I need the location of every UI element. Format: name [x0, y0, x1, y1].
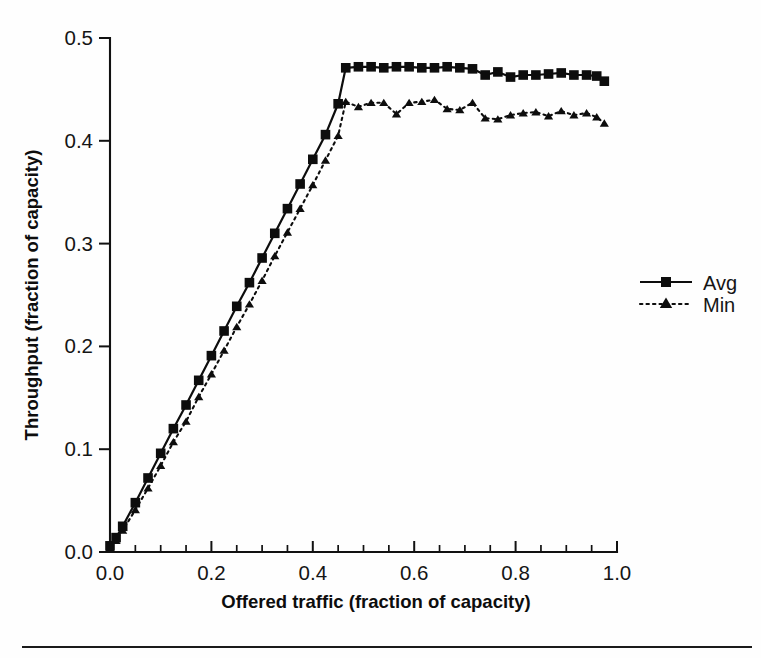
data-point-min	[367, 99, 376, 106]
data-point-avg	[245, 278, 255, 288]
legend-entry-avg: Avg	[640, 272, 737, 294]
data-point-avg	[569, 70, 579, 80]
data-point-avg	[417, 63, 427, 73]
axes-group: 0.00.10.20.30.40.5 0.00.20.40.60.81.0	[65, 26, 632, 584]
data-point-avg	[493, 67, 503, 77]
series-avg-markers	[105, 62, 609, 551]
data-point-avg	[194, 376, 204, 386]
data-point-min	[181, 417, 190, 424]
data-point-min	[219, 346, 228, 353]
legend-entry-min: Min	[640, 294, 735, 316]
data-point-avg	[321, 130, 331, 140]
data-point-min	[582, 109, 591, 116]
data-point-avg	[354, 62, 364, 72]
data-point-min	[321, 156, 330, 163]
data-point-min	[308, 181, 317, 188]
data-point-avg	[156, 449, 166, 459]
data-point-avg	[283, 204, 293, 214]
data-point-min	[405, 99, 414, 106]
data-point-min	[258, 277, 267, 284]
data-point-avg	[480, 70, 490, 80]
data-point-avg	[506, 72, 516, 82]
data-point-min	[207, 370, 216, 377]
x-tick-label: 0.6	[400, 561, 429, 584]
series-group	[105, 62, 609, 551]
x-axis-title: Offered traffic (fraction of capacity)	[221, 591, 530, 612]
legend-min-triangle-marker-icon	[660, 298, 672, 309]
y-axis-ticks	[99, 38, 110, 552]
data-point-avg	[105, 541, 115, 551]
y-tick-label: 0.2	[65, 334, 94, 357]
figure-bottom-rule	[22, 646, 752, 648]
x-axis-tick-labels: 0.00.20.40.60.81.0	[96, 561, 632, 584]
data-point-min	[417, 98, 426, 105]
y-tick-label: 0.4	[65, 129, 94, 152]
data-point-min	[430, 96, 439, 103]
data-point-avg	[600, 76, 610, 86]
data-point-avg	[295, 179, 305, 189]
data-point-avg	[544, 69, 554, 79]
data-point-avg	[442, 62, 452, 72]
data-point-avg	[341, 63, 351, 73]
data-point-avg	[207, 351, 217, 361]
data-point-min	[156, 462, 165, 469]
data-point-avg	[518, 70, 528, 80]
data-point-min	[169, 438, 178, 445]
x-axis-ticks	[110, 541, 617, 552]
data-point-avg	[531, 70, 541, 80]
y-axis-title: Throughput (fraction of capacity)	[21, 150, 42, 441]
data-point-avg	[257, 253, 267, 263]
data-point-avg	[379, 63, 389, 73]
x-tick-label: 0.0	[96, 561, 125, 584]
y-tick-label: 0.3	[65, 232, 94, 255]
data-point-avg	[232, 302, 242, 312]
data-point-min	[245, 300, 254, 307]
data-point-avg	[556, 68, 566, 78]
series-min-line	[110, 100, 604, 548]
legend-avg-label: Avg	[703, 272, 737, 294]
data-point-min	[468, 99, 477, 106]
data-point-avg	[404, 62, 414, 72]
data-point-avg	[270, 229, 280, 239]
y-tick-label: 0.0	[65, 540, 94, 563]
figure-panel: 0.00.10.20.30.40.5 0.00.20.40.60.81.0 Of…	[0, 0, 761, 658]
data-point-avg	[582, 70, 592, 80]
legend-avg-square-marker-icon	[661, 277, 671, 287]
data-point-min	[270, 252, 279, 259]
data-point-min	[334, 132, 343, 139]
data-point-avg	[308, 155, 318, 165]
data-point-avg	[219, 326, 229, 336]
data-point-avg	[430, 63, 440, 73]
data-point-avg	[131, 498, 141, 508]
x-tick-label: 0.8	[501, 561, 530, 584]
data-point-min	[283, 228, 292, 235]
x-tick-label: 0.2	[197, 561, 226, 584]
data-point-avg	[392, 62, 402, 72]
throughput-vs-offered-traffic-chart: 0.00.10.20.30.40.5 0.00.20.40.60.81.0 Of…	[0, 0, 761, 658]
y-tick-label: 0.1	[65, 437, 94, 460]
data-point-avg	[118, 522, 128, 532]
data-point-avg	[143, 473, 153, 483]
data-point-avg	[455, 63, 465, 73]
data-point-avg	[333, 99, 343, 109]
data-point-avg	[366, 62, 376, 72]
y-tick-label: 0.5	[65, 26, 94, 49]
x-tick-label: 0.4	[299, 561, 328, 584]
series-avg-line	[110, 67, 604, 546]
x-tick-label: 1.0	[603, 561, 632, 584]
data-point-avg	[169, 424, 179, 434]
data-point-avg	[468, 64, 478, 74]
data-point-min	[557, 107, 566, 114]
data-point-min	[232, 323, 241, 330]
legend-min-label: Min	[703, 294, 735, 316]
series-min-markers	[105, 96, 609, 552]
data-point-avg	[111, 533, 121, 543]
data-point-avg	[181, 400, 191, 410]
data-point-min	[194, 393, 203, 400]
legend: Avg Min	[640, 272, 737, 316]
y-axis-tick-labels: 0.00.10.20.30.40.5	[65, 26, 94, 563]
data-point-min	[296, 205, 305, 212]
